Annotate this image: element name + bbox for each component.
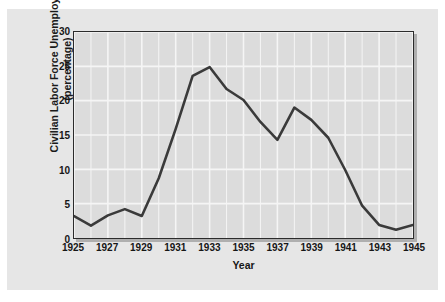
y-tick-label: 15 xyxy=(30,130,70,141)
y-tick-label: 30 xyxy=(30,26,70,37)
data-line xyxy=(74,32,413,238)
plot-area xyxy=(73,31,414,239)
y-tick-label: 25 xyxy=(30,60,70,71)
series-line xyxy=(74,67,413,230)
chart-figure: Civilian Labor Force Unemployed (percent… xyxy=(7,9,438,290)
y-tick-label: 10 xyxy=(30,164,70,175)
x-axis-tick-labels: 1925192719291931193319351937193919411943… xyxy=(73,242,414,258)
y-tick-label: 20 xyxy=(30,95,70,106)
x-tick-label: 1945 xyxy=(394,242,434,253)
x-axis-title: Year xyxy=(73,259,414,271)
y-axis-tick-labels: 051015202530 xyxy=(27,31,70,239)
y-tick-label: 5 xyxy=(30,199,70,210)
